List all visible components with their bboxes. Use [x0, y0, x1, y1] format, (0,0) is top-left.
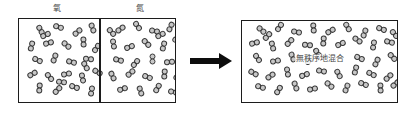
molecule-atom	[259, 84, 267, 92]
diatomic-molecule	[123, 42, 135, 51]
diatomic-molecule	[124, 67, 136, 79]
diatomic-molecule	[247, 68, 260, 79]
right-chamber-molecules	[19, 19, 175, 102]
left-apparatus-vessel	[18, 18, 176, 103]
molecule-atom	[169, 59, 175, 66]
molecule-atom	[355, 37, 363, 45]
molecule-atom	[274, 57, 281, 64]
diatomic-molecule	[353, 53, 366, 63]
diatomic-molecule	[342, 82, 352, 94]
molecule-atom	[144, 41, 152, 49]
molecule-atom	[358, 55, 366, 63]
diatomic-molecule	[252, 52, 263, 64]
diatomic-molecule	[284, 66, 292, 78]
molecule-atom	[320, 68, 327, 75]
molecule-atom	[135, 24, 143, 32]
molecule-atom	[121, 84, 129, 92]
diatomic-molecule	[165, 21, 175, 34]
diatomic-molecule	[389, 78, 397, 90]
chamber-label-nitrogen: 氮	[136, 4, 144, 14]
diatomic-molecule	[360, 27, 369, 39]
diatomic-molecule	[316, 67, 328, 75]
diatomic-molecule	[268, 40, 277, 52]
diatomic-molecule	[365, 69, 378, 79]
molecule-atom	[161, 68, 168, 75]
molecule-atom	[377, 87, 383, 93]
molecule-atom	[311, 85, 318, 92]
diatomic-molecule	[371, 56, 381, 69]
diatomic-molecule	[171, 36, 175, 47]
molecule-atom	[345, 25, 353, 33]
molecule-atom	[128, 42, 136, 50]
diatomic-molecule	[274, 21, 285, 33]
molecule-atom	[352, 64, 359, 71]
diatomic-molecule	[167, 88, 175, 96]
diatomic-molecule	[290, 28, 302, 36]
molecule-atom	[293, 85, 301, 93]
diatomic-molecule	[116, 84, 128, 93]
diatomic-molecule	[164, 59, 175, 66]
diatomic-molecule	[248, 39, 260, 48]
molecule-atom	[307, 42, 314, 49]
diatomic-molecule	[302, 42, 313, 49]
molecule-atom	[150, 59, 156, 65]
molecule-atom	[295, 29, 302, 36]
molecule-atom	[253, 39, 260, 46]
diatomic-molecule	[320, 35, 327, 46]
chamber-divider	[99, 19, 101, 102]
molecule-atom	[171, 36, 175, 44]
diatomic-molecule	[377, 82, 383, 93]
diatomic-molecule	[150, 54, 156, 65]
diatomic-molecule	[283, 36, 295, 48]
arrow-shaft	[190, 58, 219, 64]
diatomic-molecule	[254, 82, 266, 91]
molecule-atom	[172, 73, 175, 81]
diatomic-molecule	[357, 79, 369, 89]
molecule-atom	[252, 70, 260, 78]
molecule-atom	[388, 39, 395, 46]
diatomic-molecule	[386, 51, 397, 63]
diatomic-molecule	[383, 38, 395, 47]
gas-mixing-diagram: 氧 氮 無秩序地混合	[0, 0, 418, 115]
diatomic-molecule	[333, 68, 343, 81]
diatomic-molecule	[112, 56, 124, 65]
diatomic-molecule	[159, 40, 168, 52]
diatomic-molecule	[334, 39, 347, 49]
molecule-atom	[117, 57, 124, 64]
molecule-atom	[390, 55, 397, 63]
diatomic-molecule	[141, 72, 153, 82]
molecule-atom	[320, 40, 327, 47]
molecule-atom	[160, 40, 167, 47]
diatomic-molecule	[291, 80, 300, 92]
molecule-atom	[370, 39, 377, 46]
molecule-atom	[172, 89, 175, 96]
diatomic-molecule	[323, 79, 335, 91]
diatomic-molecule	[306, 85, 318, 93]
diatomic-molecule	[351, 64, 360, 76]
molecule-atom	[327, 82, 335, 90]
diatomic-molecule	[132, 20, 143, 32]
molecule-atom	[336, 72, 344, 80]
molecule-atom	[380, 26, 388, 34]
molecule-atom	[362, 81, 370, 89]
diatomic-molecule	[298, 70, 310, 79]
molecule-atom	[110, 74, 118, 82]
diatomic-molecule	[310, 22, 317, 33]
diatomic-molecule	[161, 68, 168, 79]
chamber-label-oxygen: 氧	[53, 4, 61, 14]
diatomic-molecule	[152, 82, 163, 95]
molecule-atom	[137, 90, 145, 98]
diatomic-molecule	[370, 39, 378, 51]
arrow-head	[219, 53, 232, 69]
diatomic-molecule	[140, 37, 152, 49]
diatomic-molecule	[270, 57, 282, 65]
molecule-atom	[284, 71, 291, 78]
molecule-atom	[310, 27, 317, 34]
diatomic-molecule	[342, 21, 353, 33]
molecule-atom	[370, 71, 378, 79]
diatomic-molecule	[110, 38, 118, 50]
diatomic-molecule	[273, 84, 284, 97]
molecule-atom	[303, 70, 311, 78]
diatomic-molecule	[107, 70, 117, 83]
molecule-atom	[146, 74, 154, 82]
